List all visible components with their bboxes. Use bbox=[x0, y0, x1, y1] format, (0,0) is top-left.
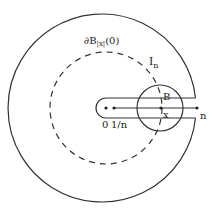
label-small-ball: B bbox=[163, 91, 170, 102]
point-zero bbox=[104, 106, 107, 109]
point-n bbox=[195, 106, 198, 109]
label-boundary-ball: ∂B|x|(0) bbox=[84, 35, 119, 48]
label-point-zero: 0 bbox=[102, 119, 108, 130]
label-point-n: n bbox=[200, 110, 207, 121]
keyhole-domain-diagram: ∂B|x|(0) In B x 0 1/n n bbox=[0, 0, 217, 214]
point-inv-n bbox=[112, 106, 115, 109]
label-arc-in: In bbox=[149, 55, 159, 70]
label-point-x: x bbox=[163, 109, 169, 120]
label-point-inv-n: 1/n bbox=[111, 119, 128, 130]
